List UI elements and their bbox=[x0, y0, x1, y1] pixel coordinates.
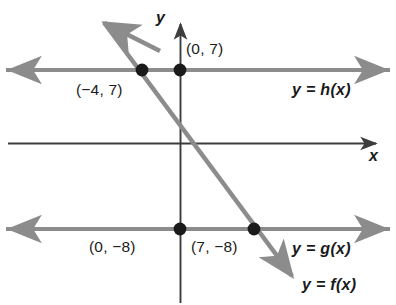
point-7-neg8 bbox=[248, 223, 261, 236]
function-label-f: y = f(x) bbox=[302, 277, 356, 293]
y-axis-label: y bbox=[156, 10, 165, 26]
point-label-7-neg8: (7, −8) bbox=[191, 239, 238, 255]
point-0-7 bbox=[174, 64, 187, 77]
axes bbox=[8, 24, 376, 303]
point-label-0-7: (0, 7) bbox=[186, 41, 223, 57]
x-axis-label: x bbox=[369, 148, 378, 164]
point-0-neg8 bbox=[174, 223, 187, 236]
function-label-g: y = g(x) bbox=[292, 241, 351, 257]
point-label-0-neg8: (0, −8) bbox=[89, 239, 136, 255]
point-label-neg4-7: (−4, 7) bbox=[76, 82, 123, 98]
graph-figure: y x (0, 7) (−4, 7) (0, −8) (7, −8) y = h… bbox=[0, 0, 396, 305]
point-neg4-7 bbox=[136, 64, 149, 77]
function-label-h: y = h(x) bbox=[292, 82, 351, 98]
